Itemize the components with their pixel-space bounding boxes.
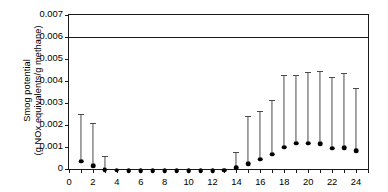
x-axis-tick-label: 2 (90, 177, 95, 186)
data-point (342, 145, 347, 150)
data-layer: 024681012141618202224 (69, 15, 368, 169)
x-axis-tick-label: 24 (351, 177, 361, 186)
y-axis-tick-label: 0.007 (19, 9, 63, 18)
data-point (294, 141, 299, 146)
data-point (150, 168, 155, 173)
error-bar-cap (305, 72, 311, 73)
y-axis-tick (65, 125, 69, 126)
error-bar-cap (102, 156, 108, 157)
data-point (174, 168, 179, 173)
data-point (126, 168, 131, 173)
error-bar (248, 116, 249, 162)
data-point (186, 168, 191, 173)
data-point (138, 168, 143, 173)
y-axis-tick (65, 147, 69, 148)
x-axis-tick (284, 169, 285, 173)
x-axis-tick (332, 169, 333, 173)
x-axis-tick-label: 10 (183, 177, 193, 186)
y-axis-tick-label: 0.003 (19, 97, 63, 106)
smog-potential-chart: Smog potential (g NOx equivalents/g meth… (0, 0, 388, 192)
y-axis-tick (65, 59, 69, 60)
data-point (282, 145, 287, 150)
data-point (103, 167, 108, 172)
error-bar (332, 77, 333, 146)
x-axis-tick-label: 16 (255, 177, 265, 186)
error-bar (284, 75, 285, 145)
x-axis-tick-label: 14 (231, 177, 241, 186)
data-point (210, 168, 215, 173)
error-bar (344, 73, 345, 145)
data-point (115, 168, 120, 173)
x-axis-tick (296, 169, 297, 173)
x-axis-tick (260, 169, 261, 173)
data-point (318, 141, 323, 146)
data-point (222, 168, 227, 173)
y-axis-tick-label: 0.004 (19, 75, 63, 84)
error-bar-cap (329, 77, 335, 78)
data-point (258, 157, 263, 162)
x-axis-tick (69, 169, 70, 173)
error-bar-cap (293, 75, 299, 76)
error-bar-cap (257, 111, 263, 112)
error-bar (272, 100, 273, 152)
error-bar-cap (353, 88, 359, 89)
y-axis-tick-label: 0.001 (19, 141, 63, 150)
x-axis-tick-label: 20 (303, 177, 313, 186)
data-point (270, 152, 275, 157)
x-axis-tick (248, 169, 249, 173)
data-point (162, 168, 167, 173)
error-bar-cap (78, 114, 84, 115)
x-axis-tick (356, 169, 357, 173)
x-axis-tick (320, 169, 321, 173)
error-bar (296, 75, 297, 141)
plot-area: 024681012141618202224 (68, 14, 369, 170)
x-axis-tick (344, 169, 345, 173)
data-point (246, 161, 251, 166)
data-point (198, 168, 203, 173)
x-axis-tick-label: 4 (114, 177, 119, 186)
y-axis-tick-label: 0.002 (19, 119, 63, 128)
x-axis-tick (93, 169, 94, 173)
y-axis-tick-labels: 00.0010.0020.0030.0040.0050.0060.007 (19, 0, 63, 192)
error-bar (92, 123, 93, 163)
error-bar (104, 156, 105, 167)
x-axis-tick (368, 169, 369, 173)
y-axis-tick-label: 0.005 (19, 53, 63, 62)
y-axis-tick-label: 0 (19, 163, 63, 172)
error-bar-cap (90, 123, 96, 124)
error-bar-cap (233, 152, 239, 153)
error-bar (260, 111, 261, 157)
x-axis-tick (308, 169, 309, 173)
error-bar-cap (317, 71, 323, 72)
data-point (79, 159, 84, 164)
error-bar (236, 152, 237, 166)
error-bar (80, 114, 81, 159)
x-axis-tick (272, 169, 273, 173)
reference-line (69, 37, 368, 38)
x-axis-tick-label: 6 (138, 177, 143, 186)
x-axis-tick (81, 169, 82, 173)
x-axis-tick-label: 0 (66, 177, 71, 186)
x-axis-tick-label: 18 (279, 177, 289, 186)
error-bar-cap (245, 116, 251, 117)
error-bar (308, 72, 309, 141)
error-bar (355, 88, 356, 149)
y-axis-tick (65, 103, 69, 104)
data-point (234, 166, 239, 171)
y-axis-tick-label: 0.006 (19, 31, 63, 40)
error-bar-cap (341, 73, 347, 74)
data-point (306, 141, 311, 146)
error-bar-cap (269, 100, 275, 101)
data-point (354, 149, 359, 154)
error-bar (320, 71, 321, 141)
x-axis-tick-label: 12 (207, 177, 217, 186)
y-axis-tick (65, 15, 69, 16)
x-axis-tick-label: 22 (327, 177, 337, 186)
data-point (330, 146, 335, 151)
data-point (91, 163, 96, 168)
x-axis-tick-label: 8 (162, 177, 167, 186)
y-axis-tick (65, 81, 69, 82)
error-bar-cap (281, 75, 287, 76)
